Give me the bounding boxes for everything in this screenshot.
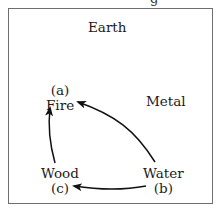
arrow-water-to-fire bbox=[78, 102, 155, 162]
arrow-wood-to-fire bbox=[49, 108, 55, 163]
arrow-water-to-wood bbox=[74, 186, 146, 189]
arrows-layer bbox=[0, 0, 222, 214]
